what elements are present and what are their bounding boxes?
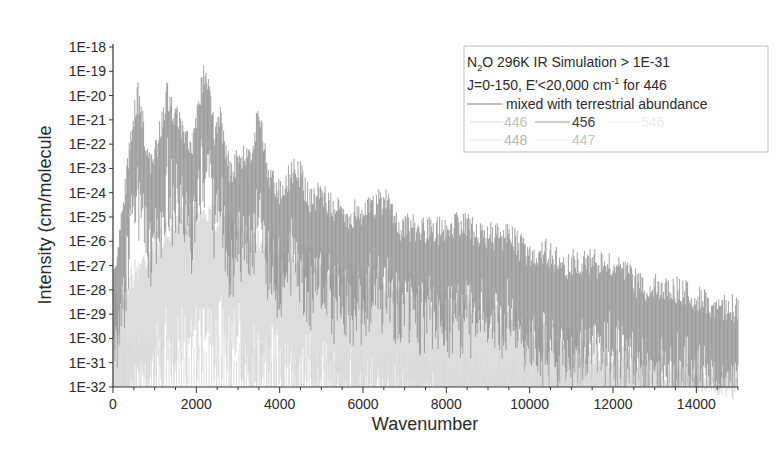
y-tick-label: 1E-19 bbox=[69, 63, 107, 79]
legend-label-546: 546 bbox=[641, 114, 665, 130]
x-tick-label: 10000 bbox=[510, 396, 549, 412]
x-tick-label: 12000 bbox=[594, 396, 633, 412]
legend-title-line1-prefix: N bbox=[467, 54, 477, 70]
legend-title-line2-sup: -1 bbox=[611, 76, 619, 86]
legend-label-448: 448 bbox=[504, 132, 528, 148]
legend-label-447: 447 bbox=[572, 132, 596, 148]
y-axis-title: Intensity (cm/molecule bbox=[35, 125, 55, 304]
y-tick-label: 1E-31 bbox=[69, 355, 107, 371]
x-tick-label: 14000 bbox=[677, 396, 716, 412]
legend-title-line2: J=0-150, E'<20,000 cm-1 for 446 bbox=[467, 76, 667, 93]
y-tick-label: 1E-32 bbox=[69, 379, 107, 395]
x-tick-label: 8000 bbox=[431, 396, 462, 412]
y-tick-label: 1E-29 bbox=[69, 306, 107, 322]
x-tick-label: 6000 bbox=[347, 396, 378, 412]
legend-title-line2-prefix: J=0-150, E'<20,000 cm bbox=[467, 77, 611, 93]
x-axis-title: Wavenumber bbox=[372, 414, 478, 434]
x-tick-label: 0 bbox=[109, 396, 117, 412]
y-tick-label: 1E-25 bbox=[69, 209, 107, 225]
legend-title-line1-suffix: O 296K IR Simulation > 1E-31 bbox=[482, 54, 670, 70]
legend-label-446: 446 bbox=[504, 114, 528, 130]
x-tick-label: 2000 bbox=[181, 396, 212, 412]
y-tick-label: 1E-24 bbox=[69, 185, 107, 201]
y-tick-label: 1E-23 bbox=[69, 160, 107, 176]
legend-label-mixed: mixed with terrestrial abundance bbox=[506, 96, 708, 112]
y-ticks: 1E-181E-191E-201E-211E-221E-231E-241E-25… bbox=[69, 39, 113, 395]
legend: N2O 296K IR Simulation > 1E-31 J=0-150, … bbox=[464, 46, 768, 152]
y-tick-label: 1E-18 bbox=[69, 39, 107, 55]
legend-title-line2-suffix: for 446 bbox=[619, 77, 667, 93]
y-tick-label: 1E-22 bbox=[69, 136, 107, 152]
y-tick-label: 1E-26 bbox=[69, 233, 107, 249]
x-ticks: 02000400060008000100001200014000 bbox=[109, 387, 738, 412]
y-tick-label: 1E-28 bbox=[69, 282, 107, 298]
y-tick-label: 1E-21 bbox=[69, 112, 107, 128]
y-tick-label: 1E-27 bbox=[69, 258, 107, 274]
x-tick-label: 4000 bbox=[264, 396, 295, 412]
y-tick-label: 1E-20 bbox=[69, 88, 107, 104]
spectrum-chart: 1E-181E-191E-201E-211E-221E-231E-241E-25… bbox=[0, 0, 776, 452]
y-tick-label: 1E-30 bbox=[69, 330, 107, 346]
legend-label-456: 456 bbox=[572, 114, 596, 130]
